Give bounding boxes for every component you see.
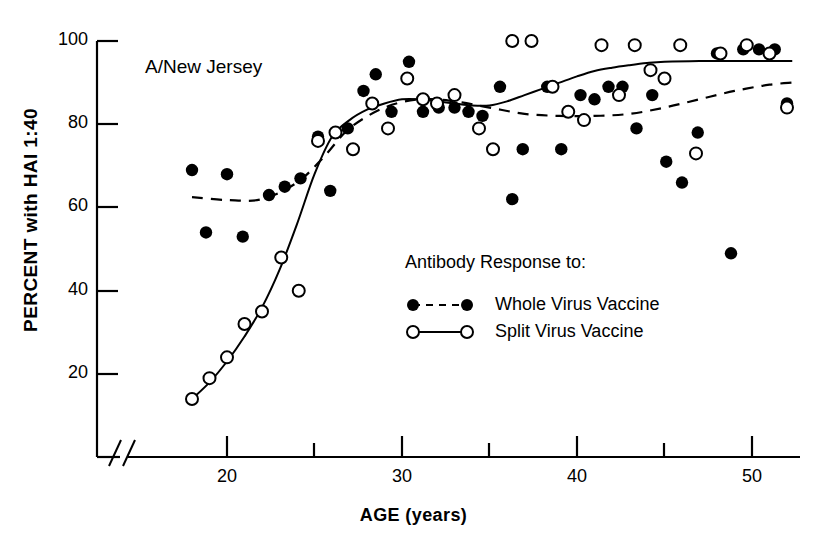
x-tick-label-30: 30: [382, 466, 422, 487]
data-point-whole-virus: [370, 68, 382, 80]
y-tick-label-60: 60: [30, 195, 88, 216]
axis-break-slash-1: [109, 440, 121, 466]
data-point-split-virus: [256, 306, 268, 318]
data-point-split-virus: [613, 89, 625, 101]
data-point-split-virus: [431, 97, 443, 109]
data-point-whole-virus: [385, 106, 397, 118]
legend-item-whole-virus: Whole Virus Vaccine: [405, 291, 659, 318]
legend-key-filled-circle-dashed: [405, 295, 481, 315]
data-point-whole-virus: [517, 143, 529, 155]
data-point-whole-virus: [494, 81, 506, 93]
data-point-split-virus: [366, 97, 378, 109]
data-point-whole-virus: [676, 176, 688, 188]
data-point-split-virus: [690, 147, 702, 159]
data-point-split-virus: [659, 72, 671, 84]
data-point-whole-virus: [357, 85, 369, 97]
legend-key-open-circle-solid: [405, 322, 481, 342]
fit-curve-solid: [192, 61, 792, 399]
data-point-split-virus: [715, 47, 727, 59]
fit-curves: [192, 61, 792, 399]
data-point-split-virus: [629, 39, 641, 51]
data-point-split-virus: [401, 72, 413, 84]
data-point-whole-virus: [448, 101, 460, 113]
y-tick-label-80: 80: [30, 112, 88, 133]
data-point-split-virus: [221, 351, 233, 363]
figure-canvas: PERCENT with HAI 1:40 A/New Jersey 100 8…: [0, 0, 827, 559]
y-tick-label-20: 20: [30, 362, 88, 383]
data-point-whole-virus: [476, 110, 488, 122]
data-point-split-virus: [347, 143, 359, 155]
data-point-split-virus: [578, 114, 590, 126]
data-point-split-virus: [382, 122, 394, 134]
data-point-whole-virus: [279, 180, 291, 192]
data-point-split-virus: [312, 135, 324, 147]
data-point-whole-virus: [660, 156, 672, 168]
data-point-whole-virus: [506, 193, 518, 205]
data-point-split-virus: [596, 39, 608, 51]
legend-label-split-virus: Split Virus Vaccine: [495, 321, 643, 342]
chart-legend: Antibody Response to: Whole Virus Vaccin…: [405, 252, 659, 345]
data-point-whole-virus: [462, 106, 474, 118]
data-point-whole-virus: [588, 93, 600, 105]
data-point-split-virus: [526, 35, 538, 47]
data-point-split-virus: [562, 106, 574, 118]
x-tick-label-50: 50: [732, 466, 772, 487]
data-point-split-virus: [275, 251, 287, 263]
legend-label-whole-virus: Whole Virus Vaccine: [495, 294, 659, 315]
legend-heading: Antibody Response to:: [405, 252, 659, 273]
y-tick-label-40: 40: [30, 279, 88, 300]
data-point-whole-virus: [646, 89, 658, 101]
axis-break-slash-2: [123, 440, 135, 466]
data-point-split-virus: [781, 102, 793, 114]
data-point-split-virus: [330, 127, 342, 139]
data-point-split-virus: [674, 39, 686, 51]
data-point-whole-virus: [294, 172, 306, 184]
data-point-split-virus: [293, 285, 305, 297]
x-axis-title: AGE (years): [0, 505, 827, 526]
data-point-whole-virus: [417, 106, 429, 118]
data-point-whole-virus: [692, 126, 704, 138]
data-point-whole-virus: [602, 81, 614, 93]
data-point-whole-virus: [725, 247, 737, 259]
data-point-whole-virus: [200, 226, 212, 238]
data-point-whole-virus: [237, 230, 249, 242]
data-point-split-virus: [204, 372, 216, 384]
y-tick-label-100: 100: [30, 29, 88, 50]
data-point-split-virus: [547, 81, 559, 93]
x-tick-label-40: 40: [557, 466, 597, 487]
data-point-split-virus: [417, 93, 429, 105]
data-point-whole-virus: [403, 56, 415, 68]
data-point-whole-virus: [574, 89, 586, 101]
data-point-split-virus: [764, 47, 776, 59]
data-point-split-virus: [239, 318, 251, 330]
data-point-split-virus: [741, 39, 753, 51]
data-point-split-virus: [186, 393, 198, 405]
data-point-whole-virus: [263, 189, 275, 201]
data-point-whole-virus: [324, 185, 336, 197]
data-point-split-virus: [645, 64, 657, 76]
data-point-split-virus: [449, 89, 461, 101]
data-point-whole-virus: [342, 122, 354, 134]
legend-item-split-virus: Split Virus Vaccine: [405, 318, 659, 345]
data-point-split-virus: [487, 143, 499, 155]
x-tick-label-20: 20: [207, 466, 247, 487]
data-point-split-virus: [473, 122, 485, 134]
data-point-whole-virus: [555, 143, 567, 155]
data-point-whole-virus: [630, 122, 642, 134]
data-point-whole-virus: [186, 164, 198, 176]
data-point-whole-virus: [221, 168, 233, 180]
data-markers: [186, 35, 793, 405]
data-point-split-virus: [506, 35, 518, 47]
